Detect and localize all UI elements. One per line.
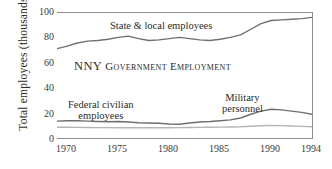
y-tick-100: 100 xyxy=(28,7,54,17)
military-label: Military personnel xyxy=(222,92,263,115)
x-tick-1994: 1994 xyxy=(291,144,331,154)
y-tick-20: 20 xyxy=(28,109,54,119)
federal-civilian-label: Federal civilian employees xyxy=(68,99,134,122)
state-local-label: State & local employees xyxy=(110,20,212,31)
employment-line-chart: Total employees (thousands) 100 80 60 40… xyxy=(0,0,332,169)
chart-title: NNY Government Employment xyxy=(74,60,231,74)
federal-civilian-label-line2: employees xyxy=(68,110,134,121)
x-tick-1980: 1980 xyxy=(148,144,188,154)
y-tick-0: 0 xyxy=(28,134,54,144)
x-tick-1990: 1990 xyxy=(250,144,290,154)
x-tick-1985: 1985 xyxy=(199,144,239,154)
military-label-line1: Military xyxy=(222,92,263,103)
chart-title-lead: NNY xyxy=(74,59,102,73)
y-tick-60: 60 xyxy=(28,58,54,68)
line-federal-civilian xyxy=(57,125,312,127)
x-tick-1975: 1975 xyxy=(97,144,137,154)
y-tick-40: 40 xyxy=(28,83,54,93)
y-tick-80: 80 xyxy=(28,32,54,42)
federal-civilian-label-line1: Federal civilian xyxy=(68,99,134,110)
military-label-line2: personnel xyxy=(222,103,263,114)
x-tick-1970: 1970 xyxy=(46,144,86,154)
chart-title-rest: Government Employment xyxy=(105,60,231,72)
